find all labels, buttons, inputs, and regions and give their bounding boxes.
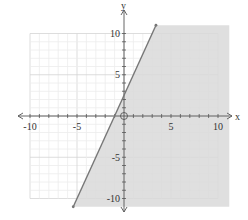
x-tick-label: 5	[169, 121, 174, 132]
x-axis-label: x	[235, 111, 240, 122]
y-tick-label: -5	[112, 152, 120, 163]
y-tick-label: 5	[115, 69, 120, 80]
y-tick-label: 10	[110, 28, 120, 39]
line-endpoint	[72, 205, 75, 208]
line-endpoint	[155, 24, 158, 27]
x-tick-label: 10	[213, 121, 223, 132]
coordinate-plane: -10-5510-10-5510 x y	[0, 0, 248, 220]
y-axis-label: y	[121, 0, 126, 11]
y-tick-label: -10	[107, 193, 120, 204]
x-tick-label: -10	[23, 121, 36, 132]
x-tick-label: -5	[73, 121, 81, 132]
